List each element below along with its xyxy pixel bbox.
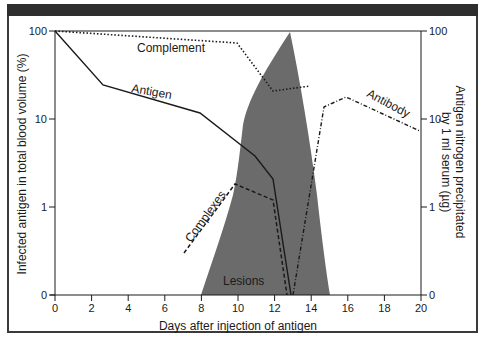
lesions-label: Lesions: [223, 274, 264, 288]
y-axis-right-title-line1: Antigen nitrogen precipitated: [453, 86, 467, 239]
x-tick-label: 20: [415, 302, 427, 314]
x-tick-label: 18: [378, 302, 390, 314]
left-y-ticks: [49, 31, 55, 295]
x-tick-label: 16: [342, 302, 354, 314]
y-left-tick-label: 10: [35, 113, 47, 125]
y-right-tick-label: 100: [429, 25, 447, 37]
x-tick-labels: 0 2 4 6 8 10 12 14 16 18 20: [52, 302, 427, 314]
y-left-tick-label: 0: [41, 289, 47, 301]
y-axis-left-title: Infected antigen in total blood volume (…: [15, 54, 29, 275]
complement-label: Complement: [137, 41, 206, 55]
left-y-tick-labels: 100 10 1 0: [29, 25, 47, 301]
y-axis-right-title-line2: by 1 ml serum (µg): [439, 112, 453, 212]
y-left-tick-label: 1: [41, 201, 47, 213]
y-right-tick-label: 0: [429, 289, 435, 301]
x-tick-label: 8: [198, 302, 204, 314]
x-tick-label: 12: [268, 302, 280, 314]
x-tick-label: 4: [125, 302, 131, 314]
y-right-tick-label: 1: [429, 201, 435, 213]
chart: 0 2 4 6 8 10 12 14 16 18 20 100 10 1 0 1…: [0, 0, 485, 343]
x-ticks: [55, 295, 421, 301]
x-tick-label: 2: [89, 302, 95, 314]
right-y-ticks: [421, 31, 427, 295]
x-tick-label: 14: [305, 302, 317, 314]
x-tick-label: 0: [52, 302, 58, 314]
y-left-tick-label: 100: [29, 25, 47, 37]
x-tick-label: 6: [162, 302, 168, 314]
antibody-label: Antibody: [365, 86, 413, 120]
x-axis-title: Days after injection of antigen: [159, 319, 317, 333]
x-tick-label: 10: [232, 302, 244, 314]
lesions-area: [201, 32, 330, 295]
